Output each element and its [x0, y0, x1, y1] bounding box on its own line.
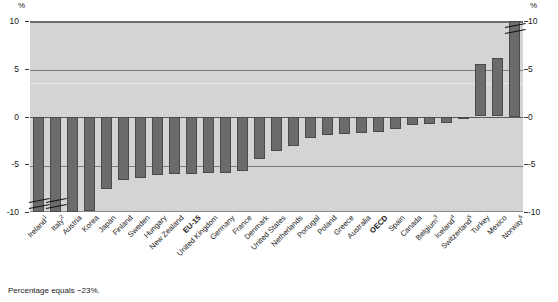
y-axis-unit-left: % [18, 2, 25, 10]
bar [322, 117, 333, 135]
bar [458, 117, 469, 119]
bar [271, 117, 282, 151]
bar [220, 117, 231, 173]
bar [441, 117, 452, 124]
chart-footnote: Percentage equals −23%. [8, 286, 100, 295]
bar [339, 117, 350, 134]
bar [169, 117, 180, 174]
bar [50, 117, 61, 213]
bar [33, 117, 44, 213]
bar [203, 117, 214, 173]
bar [373, 117, 384, 132]
bars-layer [30, 21, 523, 212]
x-axis-category-label: Korea [80, 214, 100, 234]
y-tick-mark-left [25, 117, 29, 118]
y-tick-label-right: 10 [528, 17, 537, 26]
x-axis-category-labels: Ireland1Italy2AustriaKoreaJapanFinlandSw… [0, 214, 558, 284]
y-tick-mark-left [25, 69, 29, 70]
bar [186, 117, 197, 174]
bar [288, 117, 299, 147]
bar [356, 117, 367, 133]
y-tick-label-left: 10 [10, 17, 19, 26]
y-tick-label-left: -5 [11, 160, 19, 169]
bar [390, 117, 401, 129]
bar [237, 117, 248, 171]
chart-figure: % % 10105500-5-5-10-10 Ireland1Italy2Aus… [0, 0, 558, 302]
bar [118, 117, 129, 181]
y-tick-mark-left [25, 212, 29, 213]
y-tick-label-left: 0 [14, 113, 19, 122]
bar [509, 21, 520, 117]
bar [254, 117, 265, 159]
bar [67, 117, 78, 213]
y-axis-unit-right: % [530, 2, 537, 10]
x-axis-category-label: Ireland1 [25, 214, 50, 239]
y-tick-label-left: 5 [14, 65, 19, 74]
y-tick-label-right: -5 [528, 160, 536, 169]
y-tick-mark-left [25, 164, 29, 165]
bar [424, 117, 435, 125]
y-tick-label-right: 0 [528, 113, 533, 122]
bar [101, 117, 112, 190]
y-tick-label-right: 5 [528, 65, 533, 74]
bar [492, 58, 503, 116]
bar [475, 64, 486, 117]
y-tick-mark-left [25, 21, 29, 22]
bar [152, 117, 163, 175]
bar [305, 117, 316, 139]
bar [84, 117, 95, 212]
bar [407, 117, 418, 126]
bar [135, 117, 146, 178]
